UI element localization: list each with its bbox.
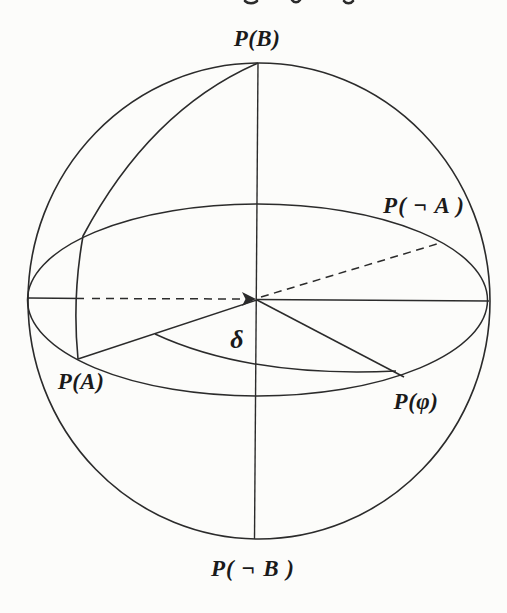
label-p-not-b: P( ¬ B ): [211, 557, 295, 580]
label-p-a: P(A): [58, 370, 105, 393]
sphere-diagram-canvas: [0, 0, 507, 613]
cropped-text-artifacts: [245, 0, 353, 3]
sphere-diagram: P(B) P( ¬ A ) P(A) P(φ) P( ¬ B ) δ: [0, 0, 507, 613]
label-delta-angle: δ: [230, 327, 243, 353]
label-p-phi: P(φ): [394, 390, 439, 413]
dashed-radius-neg-a: [261, 244, 437, 297]
delta-angle-arc: [155, 334, 396, 372]
radius-line-phi: [257, 300, 404, 377]
horizontal-axis-right-solid: [256, 300, 489, 302]
label-p-b: P(B): [234, 27, 281, 50]
label-p-not-a: P( ¬ A ): [383, 194, 465, 217]
horizontal-axis-dashed: [92, 299, 244, 300]
